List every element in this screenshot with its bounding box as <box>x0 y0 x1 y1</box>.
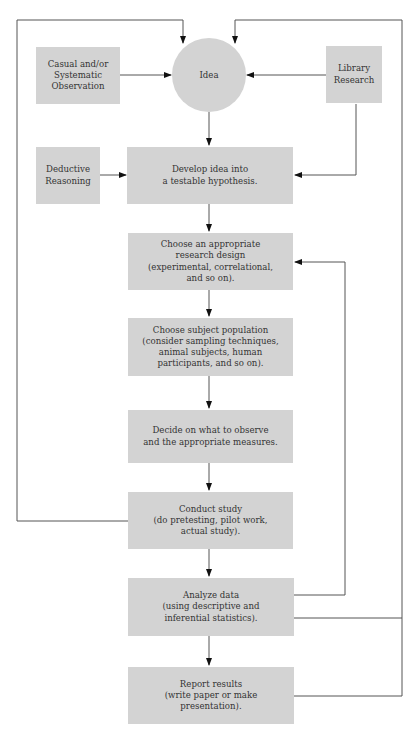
node-measures: Decide on what to observe and the approp… <box>128 410 293 463</box>
node-deductive: Deductive Reasoning <box>36 147 100 204</box>
edge-analyze-design-loop <box>294 262 345 595</box>
node-conduct: Conduct study (do pretesting, pilot work… <box>128 492 293 549</box>
node-hypothesis: Develop idea into a testable hypothesis. <box>127 147 293 204</box>
node-design: Choose an appropriate research design (e… <box>128 233 293 290</box>
node-analyze: Analyze data (using descriptive and infe… <box>128 578 294 636</box>
node-idea: Idea <box>172 38 246 112</box>
node-library: Library Research <box>326 46 382 103</box>
node-observation: Casual and/or Systematic Observation <box>36 47 120 104</box>
node-population: Choose subject population (consider samp… <box>128 318 293 376</box>
node-idea-label: Idea <box>199 70 218 80</box>
edge-library-hypothesis <box>295 104 356 175</box>
node-report: Report results (write paper or make pres… <box>128 667 294 724</box>
